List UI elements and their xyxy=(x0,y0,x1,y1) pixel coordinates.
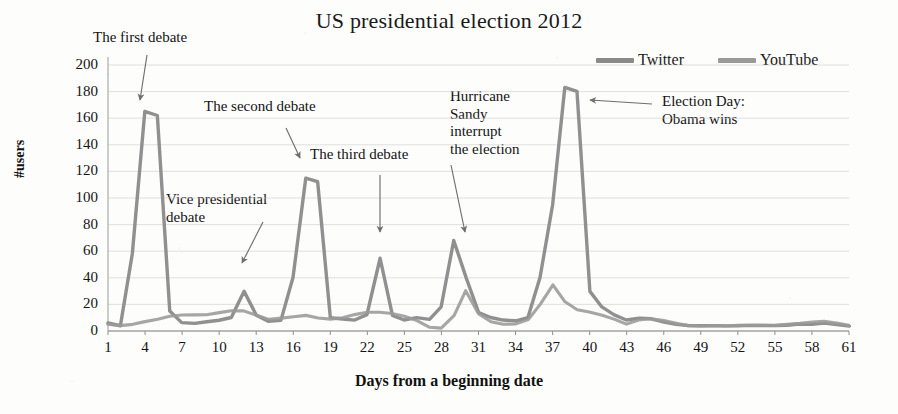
y-tick-label: 120 xyxy=(40,162,98,179)
x-tick-label: 58 xyxy=(796,339,828,356)
x-tick-label: 61 xyxy=(833,339,865,356)
x-tick-label: 37 xyxy=(537,339,569,356)
x-tick-label: 16 xyxy=(277,339,309,356)
y-tick-label: 200 xyxy=(40,56,98,73)
gridlines xyxy=(108,65,849,331)
x-tick-label: 10 xyxy=(203,339,235,356)
x-tick-label: 13 xyxy=(240,339,272,356)
axis-lines xyxy=(108,57,849,335)
x-tick-label: 7 xyxy=(166,339,198,356)
x-tick-label: 28 xyxy=(425,339,457,356)
y-tick-label: 180 xyxy=(40,83,98,100)
x-tick-label: 55 xyxy=(759,339,791,356)
y-tick-label: 80 xyxy=(40,216,98,233)
x-tick-label: 19 xyxy=(314,339,346,356)
x-tick-label: 34 xyxy=(500,339,532,356)
x-tick-label: 4 xyxy=(129,339,161,356)
data-series xyxy=(108,87,850,328)
x-tick-label: 22 xyxy=(351,339,383,356)
y-tick-label: 140 xyxy=(40,136,98,153)
x-tick-label: 46 xyxy=(648,339,680,356)
y-tick-label: 160 xyxy=(40,109,98,126)
annotation-arrows xyxy=(140,55,652,263)
x-tick-label: 25 xyxy=(388,339,420,356)
x-tick-label: 31 xyxy=(463,339,495,356)
chart-screenshot: US presidential election 2012 #users Day… xyxy=(0,0,898,414)
x-tick-label: 52 xyxy=(722,339,754,356)
x-tick-label: 40 xyxy=(574,339,606,356)
y-tick-label: 20 xyxy=(40,295,98,312)
x-tick-label: 43 xyxy=(611,339,643,356)
y-tick-label: 40 xyxy=(40,269,98,286)
x-tick-label: 49 xyxy=(685,339,717,356)
x-tick-label: 1 xyxy=(92,339,124,356)
y-tick-label: 60 xyxy=(40,242,98,259)
y-tick-label: 0 xyxy=(40,322,98,339)
y-tick-label: 100 xyxy=(40,189,98,206)
